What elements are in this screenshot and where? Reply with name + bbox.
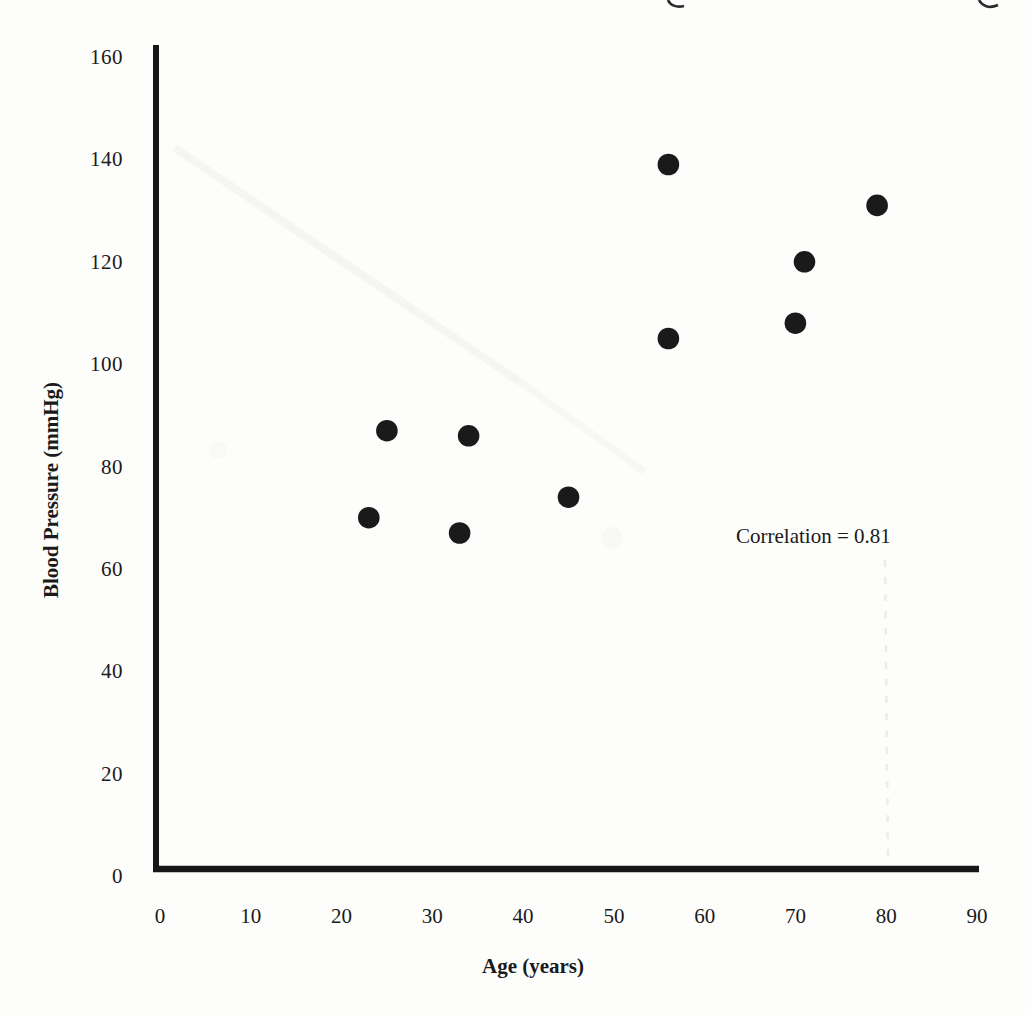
y-tick-label: 0: [38, 863, 123, 889]
y-tick-label: 160: [38, 44, 123, 70]
scan-artifact: [175, 148, 520, 382]
data-point: [358, 507, 380, 529]
x-tick-label: 60: [675, 903, 735, 929]
x-tick-label: 10: [221, 903, 281, 929]
x-tick-label: 50: [584, 903, 644, 929]
data-point: [785, 312, 807, 334]
data-point: [458, 425, 480, 447]
y-axis-title: Blood Pressure (mmHg): [39, 382, 64, 598]
data-point: [866, 195, 888, 217]
scan-artifact: [885, 560, 888, 858]
y-tick-label: 120: [38, 249, 123, 275]
correlation-annotation: Correlation = 0.81: [736, 523, 891, 550]
page-edge-text-remnant: [979, 0, 998, 7]
plot-canvas: [0, 0, 1031, 1015]
scatter-plot-figure: 020406080100120140160 010203040506070809…: [0, 0, 1031, 1015]
x-axis-title: Age (years): [482, 953, 584, 979]
page-edge-text-remnant: [668, 0, 684, 7]
scan-artifact: [520, 382, 645, 472]
data-point: [376, 420, 398, 442]
x-tick-label: 20: [312, 903, 372, 929]
x-tick-label: 30: [402, 903, 462, 929]
data-point: [449, 522, 471, 544]
x-tick-label: 40: [493, 903, 553, 929]
scan-artifact: [209, 441, 227, 459]
y-tick-label: 100: [38, 351, 123, 377]
data-point: [794, 251, 816, 273]
x-tick-label: 90: [947, 903, 1007, 929]
data-point: [658, 328, 680, 350]
x-tick-label: 80: [856, 903, 916, 929]
data-point: [658, 154, 680, 176]
x-tick-label: 70: [765, 903, 825, 929]
y-tick-label: 20: [38, 761, 123, 787]
y-tick-label: 140: [38, 146, 123, 172]
scan-artifact: [601, 527, 623, 549]
x-tick-label: 0: [130, 903, 190, 929]
y-tick-label: 40: [38, 658, 123, 684]
data-point: [558, 486, 580, 508]
